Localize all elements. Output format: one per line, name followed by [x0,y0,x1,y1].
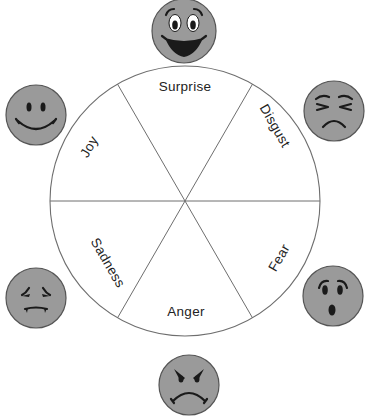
happy-face-icon [6,85,66,145]
label-anger: Anger [167,304,205,319]
emotion-wheel-diagram: Surprise Disgust Fear Anger Sadness Joy [0,0,370,420]
disgusted-face-icon [304,81,364,141]
wheel [50,66,320,336]
sad-face-icon [6,268,66,328]
fearful-face-icon [303,266,363,326]
surprised-face-icon [152,0,216,63]
angry-face-icon [159,355,219,415]
label-surprise: Surprise [159,79,212,94]
